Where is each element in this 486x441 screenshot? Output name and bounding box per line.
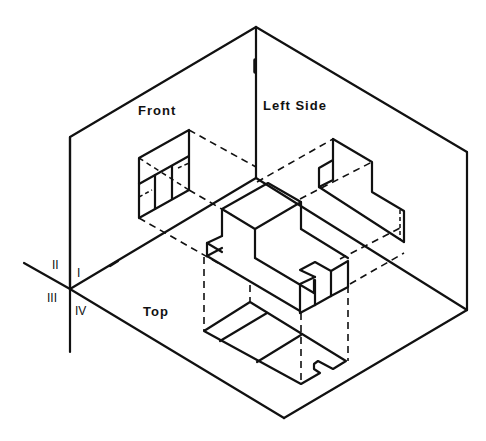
front-plane	[70, 27, 256, 289]
front-view	[139, 130, 189, 218]
top-view	[204, 302, 346, 384]
quadrant-axes	[24, 137, 70, 352]
projection-diagram: Front Left Side Top II I III IV	[0, 0, 486, 441]
quadrant-label-ii: II	[52, 258, 59, 272]
quadrant-label-iv: IV	[75, 304, 86, 318]
side-plane	[255, 27, 467, 310]
top-plane-label: Top	[143, 304, 169, 319]
side-plane-label: Left Side	[263, 98, 327, 113]
isometric-object	[207, 183, 348, 313]
front-plane-label: Front	[138, 103, 176, 118]
top-plane	[70, 289, 467, 418]
quadrant-label-iii: III	[47, 291, 57, 305]
diagram-canvas: Front Left Side Top II I III IV	[0, 0, 486, 441]
quadrant-label-i: I	[77, 266, 80, 280]
